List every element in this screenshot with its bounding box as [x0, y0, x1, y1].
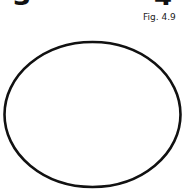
ellipse-figure — [0, 0, 183, 189]
ellipse-shape — [5, 42, 181, 187]
